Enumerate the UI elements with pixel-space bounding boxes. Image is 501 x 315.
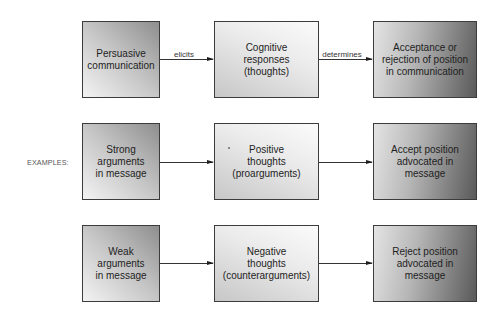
box-reject-position: Reject position advocated in message — [373, 225, 477, 302]
box-label: Strong arguments in message — [95, 144, 146, 180]
arrow-weak-to-negative — [160, 263, 213, 264]
arrowhead-icon — [207, 261, 214, 265]
box-acceptance-or-rejection: Acceptance or rejection of position in c… — [373, 21, 477, 98]
box-label: Cognitive responses (thoughts) — [243, 42, 289, 78]
box-label: Acceptance or rejection of position in c… — [382, 42, 468, 78]
box-label: Weak arguments in message — [95, 246, 146, 282]
box-label: Reject position advocated in message — [392, 246, 458, 282]
edge-label-determines: determines — [315, 50, 369, 59]
scan-speck — [228, 147, 230, 149]
box-negative-thoughts: Negative thoughts (counterarguments) — [214, 225, 319, 302]
box-strong-arguments: Strong arguments in message — [82, 123, 160, 200]
arrowhead-icon — [366, 261, 373, 265]
arrow-determines — [319, 59, 372, 60]
arrowhead-icon — [366, 160, 373, 164]
box-weak-arguments: Weak arguments in message — [82, 225, 160, 302]
arrow-strong-to-positive — [160, 162, 213, 163]
box-label: Negative thoughts (counterarguments) — [223, 246, 310, 282]
arrow-positive-to-accept — [319, 162, 372, 163]
examples-label: EXAMPLES: — [27, 158, 69, 167]
box-label: Positive thoughts (proarguments) — [232, 144, 300, 180]
arrowhead-icon — [207, 160, 214, 164]
edge-label-elicits: elicits — [157, 50, 211, 59]
box-persuasive-communication: Persuasive communication — [82, 21, 160, 98]
box-label: Accept position advocated in message — [391, 144, 459, 180]
box-positive-thoughts: Positive thoughts (proarguments) — [214, 123, 319, 200]
box-cognitive-responses: Cognitive responses (thoughts) — [214, 21, 319, 98]
box-accept-position: Accept position advocated in message — [373, 123, 477, 200]
arrow-negative-to-reject — [319, 263, 372, 264]
arrow-elicits — [160, 59, 213, 60]
box-label: Persuasive communication — [87, 48, 154, 72]
